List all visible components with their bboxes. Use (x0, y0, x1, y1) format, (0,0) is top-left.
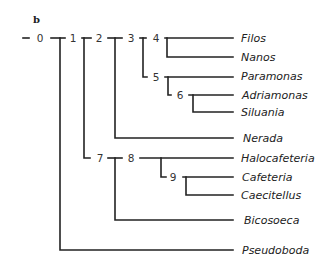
taxon-filos: Filos (241, 33, 266, 44)
taxon-siluania: Siluania (241, 107, 285, 118)
node-label-5: 5 (153, 72, 160, 83)
taxon-nerada: Nerada (243, 133, 283, 144)
node-label-9: 9 (170, 172, 177, 183)
taxon-nanos: Nanos (241, 52, 275, 63)
taxon-pseudoboda: Pseudoboda (242, 245, 309, 256)
branch-pseudoboda (60, 38, 233, 250)
branch-5-to-6 (168, 77, 171, 95)
node-label-7: 7 (97, 153, 104, 164)
taxon-paramonas: Paramonas (241, 71, 303, 82)
node-label-6: 6 (177, 90, 184, 101)
branch-nerada (115, 38, 233, 138)
branch-3-to-5 (143, 38, 147, 77)
panel-label: b (33, 15, 40, 25)
node-label-3: 3 (128, 33, 135, 44)
node-label-0: 0 (37, 33, 44, 44)
taxon-adriamonas: Adriamonas (242, 90, 308, 101)
branch-caecitellus (186, 177, 233, 195)
node-label-2: 2 (96, 33, 103, 44)
node-label-4: 4 (153, 33, 160, 44)
taxon-bicosoeca: Bicosoeca (244, 215, 299, 226)
branch-8-to-9 (161, 158, 166, 177)
branch-bicosoeca (115, 158, 233, 220)
branch-nanos (167, 38, 233, 57)
taxon-cafeteria: Cafeteria (242, 172, 292, 183)
branch-1-to-7 (84, 38, 90, 158)
branch-siluania (193, 95, 233, 112)
taxon-halocafeteria: Halocafeteria (241, 153, 315, 164)
node-label-1: 1 (70, 33, 77, 44)
cladogram (0, 0, 333, 269)
taxon-caecitellus: Caecitellus (241, 190, 301, 201)
node-label-8: 8 (128, 153, 135, 164)
